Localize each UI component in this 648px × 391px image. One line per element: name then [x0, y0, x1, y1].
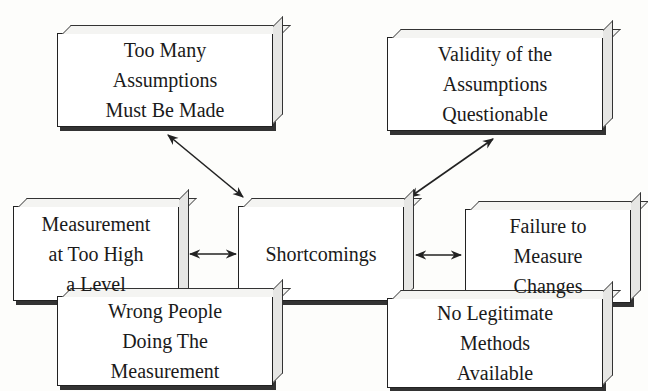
node-label: Validity of the Assumptions Questionable: [438, 39, 552, 129]
node-validity-questionable: Validity of the Assumptions Questionable: [387, 37, 603, 131]
node-too-many-assumptions: Too Many Assumptions Must Be Made: [57, 33, 273, 127]
node-label: Too Many Assumptions Must Be Made: [106, 35, 225, 125]
node-wrong-people: Wrong People Doing The Measurement: [57, 296, 273, 386]
arrow-validity-questionable: [410, 139, 493, 197]
node-measurement-too-high: Measurement at Too High a Level: [13, 206, 179, 301]
center-label: Shortcomings: [265, 239, 376, 269]
node-label: Failure to Measure Changes: [509, 211, 586, 301]
node-label: Wrong People Doing The Measurement: [108, 296, 222, 386]
arrow-too-many-assumptions: [168, 135, 243, 197]
diagram-canvas: Too Many Assumptions Must Be Made Validi…: [0, 0, 648, 391]
node-no-legitimate-methods: No Legitimate Methods Available: [387, 298, 603, 388]
node-label: Measurement at Too High a Level: [42, 209, 151, 299]
node-label: No Legitimate Methods Available: [437, 298, 553, 388]
node-shortcomings-center: Shortcomings: [238, 206, 404, 301]
